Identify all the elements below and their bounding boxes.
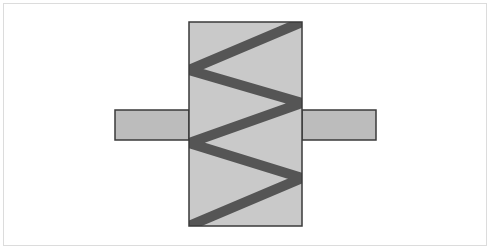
- spring-diagram: [0, 0, 492, 251]
- left-connector-tab: [115, 110, 189, 140]
- right-connector-tab: [302, 110, 376, 140]
